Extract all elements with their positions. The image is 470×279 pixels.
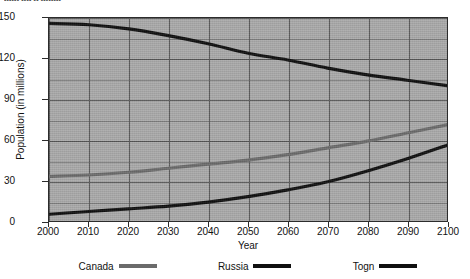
x-tick-mark	[168, 222, 169, 227]
series-layer	[49, 18, 447, 221]
x-axis-title: Year	[48, 240, 448, 251]
y-tick-mark	[42, 58, 48, 59]
y-tick-label: 0	[0, 217, 15, 227]
x-tick-mark	[288, 222, 289, 227]
x-tick-label: 2030	[146, 226, 190, 237]
plot-area	[48, 17, 448, 222]
x-tick-mark	[208, 222, 209, 227]
series-line-togn	[49, 145, 447, 214]
chart-screenshot: ------ ---- -- -------- 0306090120150 20…	[0, 0, 470, 279]
legend-label: Russia	[218, 261, 249, 272]
x-tick-mark	[248, 222, 249, 227]
series-line-canada	[49, 125, 447, 176]
x-tick-mark	[128, 222, 129, 227]
legend-color-swatch	[253, 264, 291, 268]
population-projection-line-chart: 0306090120150 20002010202020302040205020…	[0, 0, 470, 279]
x-tick-label: 2000	[26, 226, 70, 237]
y-tick-mark	[42, 99, 48, 100]
x-tick-label: 2020	[106, 226, 150, 237]
x-tick-mark	[368, 222, 369, 227]
x-tick-mark	[408, 222, 409, 227]
legend-color-swatch	[379, 264, 417, 268]
legend-label: Canada	[79, 261, 114, 272]
x-tick-label: 2050	[226, 226, 270, 237]
x-tick-label: 2070	[306, 226, 350, 237]
chart-legend: CanadaRussiaTogn	[48, 259, 448, 273]
x-tick-label: 2060	[266, 226, 310, 237]
y-tick-label: 60	[0, 135, 15, 145]
y-tick-mark	[42, 17, 48, 18]
x-tick-mark	[328, 222, 329, 227]
x-tick-label: 2010	[66, 226, 110, 237]
x-tick-label: 2090	[386, 226, 430, 237]
legend-item-togn[interactable]: Togn	[353, 261, 418, 272]
x-tick-label: 2040	[186, 226, 230, 237]
y-tick-mark	[42, 181, 48, 182]
x-tick-mark	[48, 222, 49, 227]
y-tick-label: 150	[0, 12, 15, 22]
y-axis-title: Population (in millions)	[15, 35, 26, 185]
x-tick-label: 2080	[346, 226, 390, 237]
legend-color-swatch	[119, 264, 157, 268]
legend-label: Togn	[353, 261, 375, 272]
x-tick-mark	[88, 222, 89, 227]
x-tick-mark	[448, 222, 449, 227]
legend-item-russia[interactable]: Russia	[218, 261, 292, 272]
x-tick-label: 2100	[426, 226, 470, 237]
y-tick-mark	[42, 140, 48, 141]
y-tick-label: 90	[0, 94, 15, 104]
legend-item-canada[interactable]: Canada	[79, 261, 157, 272]
y-tick-label: 120	[0, 53, 15, 63]
series-line-russia	[49, 23, 447, 85]
y-tick-label: 30	[0, 176, 15, 186]
